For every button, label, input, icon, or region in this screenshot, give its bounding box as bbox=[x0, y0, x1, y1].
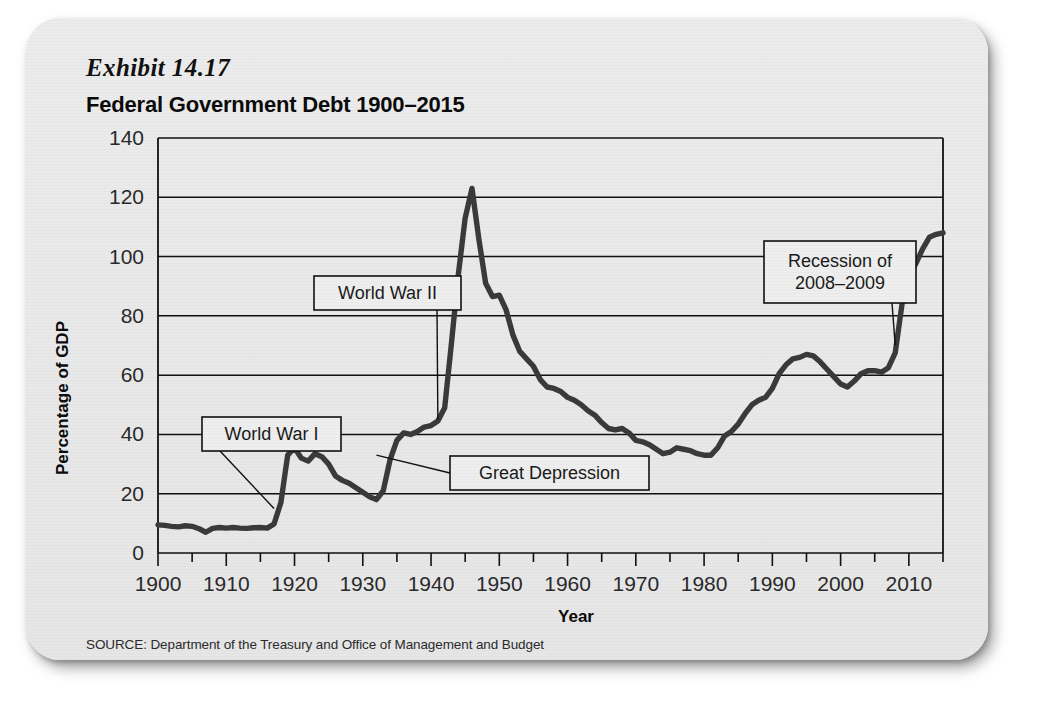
x-tick-label-1930: 1930 bbox=[339, 572, 386, 595]
callout-label-world-war-i: World War I bbox=[224, 424, 318, 444]
x-tick-label-1970: 1970 bbox=[612, 572, 659, 595]
callout-label-great-depression: Great Depression bbox=[479, 463, 620, 483]
x-tick-label-1940: 1940 bbox=[408, 572, 455, 595]
leader-line-recession-2008 bbox=[892, 303, 895, 346]
y-tick-label-40: 40 bbox=[121, 422, 144, 445]
annotation-recession-2008: Recession of2008–2009 bbox=[764, 241, 916, 346]
callout-label-recession-2008: 2008–2009 bbox=[795, 273, 885, 293]
x-tick-label-1960: 1960 bbox=[544, 572, 591, 595]
y-tick-label-0: 0 bbox=[132, 541, 144, 564]
x-axis-tick-labels: 1900191019201930194019501960197019801990… bbox=[135, 572, 933, 595]
x-tick-label-1980: 1980 bbox=[681, 572, 728, 595]
callout-label-recession-2008: Recession of bbox=[788, 251, 893, 271]
y-tick-label-140: 140 bbox=[109, 126, 144, 149]
y-axis-title: Percentage of GDP bbox=[53, 321, 72, 475]
y-axis-tick-labels: 020406080100120140 bbox=[109, 126, 144, 564]
x-tick-label-1910: 1910 bbox=[203, 572, 250, 595]
y-tick-label-60: 60 bbox=[121, 363, 144, 386]
y-tick-label-100: 100 bbox=[109, 245, 144, 268]
x-tick-label-1990: 1990 bbox=[749, 572, 796, 595]
x-axis-ticks bbox=[158, 553, 943, 566]
y-tick-label-80: 80 bbox=[121, 304, 144, 327]
y-tick-label-20: 20 bbox=[121, 482, 144, 505]
source-note: SOURCE: Department of the Treasury and O… bbox=[86, 637, 544, 652]
x-tick-label-1920: 1920 bbox=[271, 572, 318, 595]
exhibit-page: Exhibit 14.17 Federal Government Debt 19… bbox=[0, 0, 1045, 710]
y-tick-label-120: 120 bbox=[109, 185, 144, 208]
x-tick-label-2000: 2000 bbox=[817, 572, 864, 595]
exhibit-card: Exhibit 14.17 Federal Government Debt 19… bbox=[26, 18, 988, 660]
annotation-great-depression: Great Depression bbox=[376, 455, 649, 490]
leader-line-world-war-ii bbox=[437, 310, 438, 420]
x-tick-label-2010: 2010 bbox=[886, 572, 933, 595]
annotation-world-war-i: World War I bbox=[202, 417, 341, 509]
leader-line-world-war-i bbox=[220, 451, 274, 509]
x-tick-label-1950: 1950 bbox=[476, 572, 523, 595]
debt-line-chart: 020406080100120140 190019101920193019401… bbox=[26, 18, 988, 660]
callout-label-world-war-ii: World War II bbox=[338, 283, 437, 303]
x-tick-label-1900: 1900 bbox=[135, 572, 182, 595]
x-axis-title: Year bbox=[558, 607, 594, 626]
annotation-world-war-ii: World War II bbox=[314, 276, 461, 420]
chart-plot-area: 020406080100120140 190019101920193019401… bbox=[26, 18, 988, 660]
